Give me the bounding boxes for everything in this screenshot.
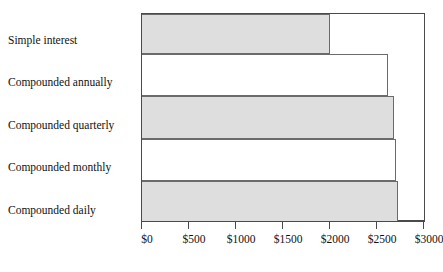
plot-area [141,13,425,221]
x-tick-label-500: $500 [183,233,206,246]
x-tick-500 [188,221,189,229]
x-tick-1500 [282,221,283,229]
bar-compounded-quarterly[interactable] [142,96,394,139]
x-tick-2000 [329,221,330,229]
category-label-compounded-annually: Compounded annually [8,76,136,88]
x-tick-label-3000: $3000 [415,233,443,246]
x-tick-3000 [423,221,424,229]
x-tick-0 [141,221,142,229]
bar-compounded-daily[interactable] [142,181,398,222]
x-tick-2500 [376,221,377,229]
bar-compounded-monthly[interactable] [142,139,396,181]
x-tick-label-2500: $2500 [368,233,397,246]
x-axis-line [141,221,425,222]
category-label-simple-interest: Simple interest [8,34,136,46]
x-tick-label-1000: $1000 [227,233,256,246]
bar-simple-interest[interactable] [142,14,330,54]
category-label-compounded-quarterly: Compounded quarterly [8,119,136,131]
x-tick-label-1500: $1500 [274,233,303,246]
category-label-compounded-monthly: Compounded monthly [8,161,136,173]
x-tick-label-0: $0 [141,233,153,246]
x-tick-label-2000: $2000 [321,233,350,246]
x-tick-1000 [235,221,236,229]
category-label-compounded-daily: Compounded daily [8,204,136,216]
bar-compounded-annually[interactable] [142,54,388,96]
